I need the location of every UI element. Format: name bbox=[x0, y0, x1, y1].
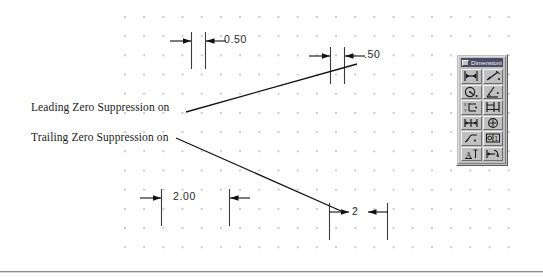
dim-a-extension-lines bbox=[192, 32, 206, 69]
ordinate-dimension-icon[interactable]: X Y bbox=[461, 100, 482, 115]
leader-line-trailing bbox=[176, 138, 341, 211]
toolbar-button-grid: X Y bbox=[461, 69, 503, 161]
cad-illustration-canvas: Leading Zero Suppression on Trailing Zer… bbox=[0, 0, 543, 278]
linear-dimension-icon[interactable] bbox=[461, 69, 482, 84]
toolbar-close-icon[interactable] bbox=[462, 60, 469, 66]
dim-d-extension-lines bbox=[330, 203, 388, 240]
dimension-style-icon[interactable] bbox=[483, 147, 504, 162]
svg-text:A: A bbox=[466, 149, 473, 159]
dimension-value-top-right: .50 bbox=[364, 48, 380, 60]
svg-text:X: X bbox=[464, 102, 467, 107]
svg-text:1: 1 bbox=[494, 135, 498, 142]
leader-line-leading bbox=[186, 64, 357, 112]
annotation-leading-zero-suppression: Leading Zero Suppression on bbox=[31, 101, 169, 113]
dim-b-extension-lines bbox=[331, 47, 345, 84]
toolbar-inner-frame: Dimensioning bbox=[458, 56, 506, 164]
leader-icon[interactable] bbox=[461, 131, 482, 146]
dimension-value-top-left: 0.50 bbox=[224, 33, 247, 45]
toolbar-title-bar[interactable]: Dimensioning bbox=[461, 58, 503, 67]
center-mark-icon[interactable] bbox=[483, 116, 504, 131]
angular-dimension-icon[interactable] bbox=[483, 85, 504, 100]
annotation-trailing-zero-suppression: Trailing Zero Suppression on bbox=[31, 131, 169, 143]
svg-text:Y: Y bbox=[464, 108, 467, 113]
dimension-value-bottom-left: 2.00 bbox=[173, 190, 196, 202]
dimensioning-toolbar[interactable]: Dimensioning bbox=[456, 54, 508, 166]
dimension-value-bottom-right: 2 bbox=[352, 205, 358, 217]
dimension-text-edit-icon[interactable]: A bbox=[461, 147, 482, 162]
tolerance-icon[interactable]: 1 bbox=[483, 131, 504, 146]
baseline-dimension-icon[interactable] bbox=[483, 100, 504, 115]
aligned-dimension-icon[interactable] bbox=[483, 69, 504, 84]
toolbar-title-label: Dimensioning bbox=[471, 59, 502, 67]
radius-dimension-icon[interactable] bbox=[461, 85, 482, 100]
continue-dimension-icon[interactable] bbox=[461, 116, 482, 131]
bottom-frame-rule bbox=[0, 271, 543, 273]
